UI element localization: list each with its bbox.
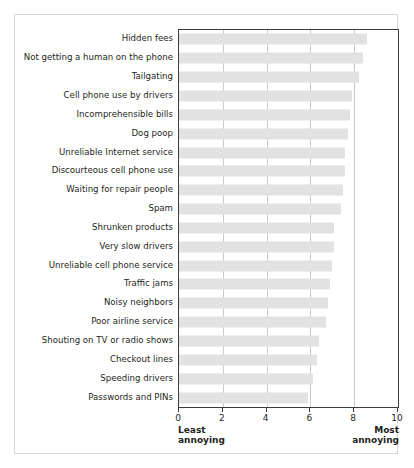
gridline [354,30,355,407]
bar [179,317,326,328]
plot-area [178,29,399,408]
x-axis-tick [309,407,310,412]
category-label: Checkout lines [110,355,178,364]
bar [179,147,345,158]
figure-container: Hidden feesNot getting a human on the ph… [14,14,398,454]
category-label: Unreliable Internet service [59,147,178,156]
axis-high-caption-line1: Most [352,425,399,435]
bar [179,53,363,64]
bar [179,260,332,271]
category-label: Traffic jams [124,279,178,288]
x-axis-tick [222,407,223,412]
category-label: Spam [148,204,178,213]
gridline [267,30,268,407]
category-label: Noisy neighbors [104,298,178,307]
axis-low-caption-line1: Least [178,425,225,435]
bar [179,354,317,365]
category-label: Speeding drivers [100,373,178,382]
bar [179,204,341,215]
bar-chart: Hidden feesNot getting a human on the ph… [15,15,399,455]
x-axis-tick-label: 2 [219,413,225,423]
category-label: Very slow drivers [100,241,179,250]
x-axis-tick-label: 0 [175,413,181,423]
x-axis-tick [266,407,267,412]
axis-high-caption-line2: annoying [352,435,399,445]
gridline [223,30,224,407]
x-axis-tick-label: 4 [263,413,269,423]
bar [179,34,367,45]
gridline [310,30,311,407]
x-axis: 0246810 Least annoying Most annoying [178,407,399,447]
category-label: Poor airline service [91,317,178,326]
category-label: Cell phone use by drivers [64,91,178,100]
x-axis-tick-label: 10 [391,413,402,423]
x-axis-tick-label: 6 [307,413,313,423]
x-axis-tick-label: 8 [350,413,356,423]
bar [179,222,334,233]
bar [179,90,352,101]
category-label: Dog poop [132,128,179,137]
bar [179,392,308,403]
category-label: Tailgating [132,72,178,81]
bar [179,109,350,120]
category-label: Hidden fees [122,34,178,43]
bar [179,166,345,177]
category-label: Shrunken products [92,223,178,232]
bar [179,185,343,196]
axis-low-caption-line2: annoying [178,435,225,445]
axis-high-caption: Most annoying [352,425,399,446]
x-axis-tick [353,407,354,412]
category-label: Not getting a human on the phone [24,53,178,62]
bar [179,72,359,83]
bar [179,373,313,384]
bar [179,298,328,309]
axis-low-caption: Least annoying [178,425,225,446]
category-label: Passwords and PINs [88,392,178,401]
x-axis-tick [397,407,398,412]
bar [179,279,330,290]
bar [179,336,319,347]
x-axis-tick [178,407,179,412]
bar [179,241,334,252]
category-label: Shouting on TV or radio shows [42,336,178,345]
bar [179,128,348,139]
category-label: Incomprehensible bills [77,110,178,119]
category-label: Unreliable cell phone service [49,260,178,269]
category-label: Discourteous cell phone use [52,166,178,175]
category-label: Waiting for repair people [66,185,178,194]
